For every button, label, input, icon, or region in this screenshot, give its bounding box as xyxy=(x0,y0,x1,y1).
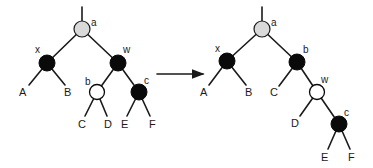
right-node-x xyxy=(219,53,235,69)
left-leaf-E: E xyxy=(121,118,128,130)
left-leaf-D: D xyxy=(104,118,112,130)
right-label-b: b xyxy=(303,44,309,55)
right-leaf-F: F xyxy=(348,151,355,163)
diagram-canvas: a x w b c A B C D E F a x b xyxy=(0,0,373,168)
left-label-c: c xyxy=(144,75,149,86)
right-tree: a x b w c A B C D E F xyxy=(200,7,355,163)
right-label-w: w xyxy=(320,74,329,85)
right-leaf-D: D xyxy=(291,117,299,129)
right-label-x: x xyxy=(215,43,220,54)
left-node-w xyxy=(110,55,126,71)
left-leaf-F: F xyxy=(149,118,156,130)
left-tree: a x w b c A B C D E F xyxy=(19,7,156,130)
right-label-c: c xyxy=(344,107,349,118)
left-label-w: w xyxy=(122,44,131,55)
right-leaf-E: E xyxy=(321,151,328,163)
right-leaf-A: A xyxy=(200,86,208,98)
left-label-b: b xyxy=(85,76,91,87)
left-leaf-B: B xyxy=(64,86,71,98)
left-node-c xyxy=(131,84,147,100)
right-label-a: a xyxy=(271,17,277,28)
right-node-c xyxy=(331,116,347,132)
left-label-x: x xyxy=(35,44,40,55)
right-leaf-B: B xyxy=(245,86,252,98)
left-leaf-C: C xyxy=(78,118,86,130)
left-node-b xyxy=(90,85,105,100)
left-leaf-A: A xyxy=(19,86,27,98)
right-node-w xyxy=(310,85,325,100)
right-node-b xyxy=(289,54,305,70)
left-node-x xyxy=(39,55,55,71)
right-leaf-C: C xyxy=(270,86,278,98)
left-node-a xyxy=(74,21,90,37)
left-label-a: a xyxy=(91,17,97,28)
right-node-a xyxy=(254,21,270,37)
